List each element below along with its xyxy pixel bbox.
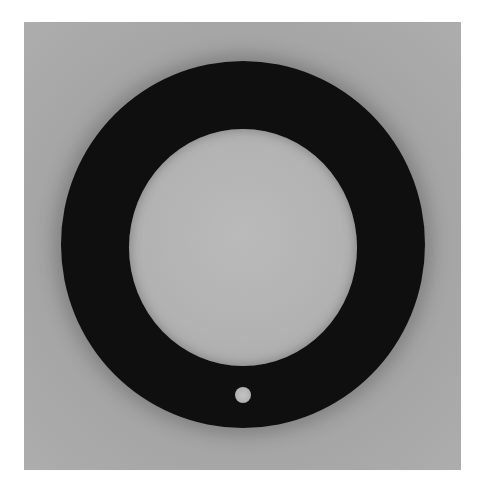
gasket-center-opening [129, 129, 357, 366]
gasket-small-hole [235, 387, 251, 403]
photo-canvas: black ring gasket with small hole [0, 0, 483, 491]
